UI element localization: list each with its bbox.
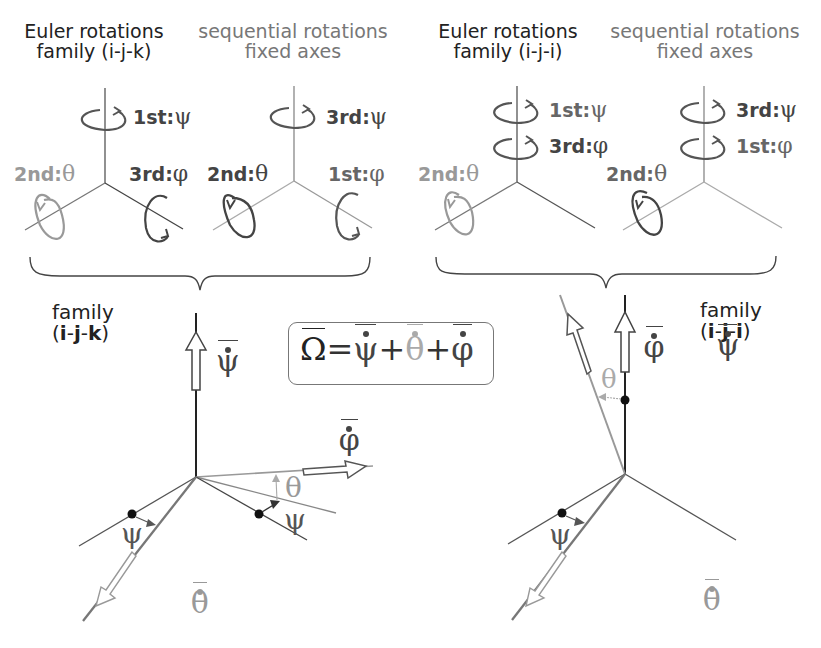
title-line-2: fixed axes (198, 42, 388, 62)
title-line-2: family (i-j-i) (428, 42, 588, 62)
angular-velocity-equation: Ω=ψ+θ+φ (300, 330, 474, 368)
plus-sign: + (378, 330, 405, 368)
rotation-arrow-icon (82, 107, 125, 130)
theta-dot-symbol: θ (405, 330, 424, 368)
title-line-1: Euler rotations (428, 22, 588, 42)
rotation-arrow-icon (632, 191, 661, 235)
title-line-1: sequential rotations (198, 22, 388, 42)
rotation-arrow-icon (681, 136, 724, 159)
rotation-arrow-icon (35, 195, 63, 239)
iji-fixed-title: sequential rotations fixed axes (610, 22, 800, 62)
ijk-fixed-title: sequential rotations fixed axes (198, 22, 388, 62)
rotation-label: 1st:ψ (133, 105, 191, 128)
theta-dot-vector-arrow (526, 552, 566, 606)
rotation-label: 1st:ψ (549, 98, 607, 121)
title-line-1: Euler rotations (14, 22, 174, 42)
psi-dot-vector-arrow (186, 332, 206, 390)
phi-dot-vector-arrow (567, 314, 591, 374)
phi-dot-symbol: φ (451, 330, 473, 368)
rotation-label: 2nd:θ (418, 162, 479, 185)
rotation-label: 2nd:θ (606, 162, 667, 185)
phi-dot-label: φ (644, 332, 665, 362)
iji-frame (508, 295, 736, 620)
theta-angle-label: θ (601, 366, 617, 392)
rotation-arrow-icon (336, 193, 359, 239)
rotation-arrow-icon (494, 100, 537, 123)
rotation-label: 3rd:φ (549, 134, 608, 157)
rotation-label: 3rd:ψ (326, 105, 387, 128)
rotation-label: 3rd:φ (129, 162, 188, 185)
rotation-arrow-icon (224, 195, 255, 237)
theta-dot-label: θ (703, 585, 721, 615)
rotation-label: 1st:φ (736, 134, 793, 157)
family-word: family (700, 300, 762, 321)
family-index: (i-j-k) (52, 323, 114, 344)
rotation-arrow-icon (494, 136, 537, 159)
omega-symbol: Ω (300, 330, 327, 368)
ijk-family-label: family (i-j-k) (52, 302, 114, 344)
psi-dot-vector-arrow (615, 312, 635, 372)
rotation-label: 3rd:ψ (736, 98, 797, 121)
rotation-arrow-icon (681, 100, 724, 123)
psi-dot-symbol: ψ (353, 330, 378, 368)
title-line-2: family (i-j-k) (14, 42, 174, 62)
right-brace (436, 256, 776, 288)
rotation-label: 2nd:θ (14, 162, 75, 185)
equals-sign: = (327, 330, 354, 368)
title-line-1: sequential rotations (610, 22, 800, 42)
plus-sign: + (425, 330, 452, 368)
phi-dot-label: φ (339, 425, 360, 455)
theta-dot-vector-arrow (96, 552, 136, 606)
psi-angle-label: ψ (121, 520, 143, 548)
psi-dot-label: ψ (216, 346, 240, 376)
rotation-label: 2nd:θ (207, 162, 268, 185)
rotation-label: 1st:φ (328, 162, 385, 185)
theta-dot-label: θ (191, 588, 209, 618)
rotation-arrow-icon (271, 105, 314, 128)
phi-dot-vector-arrow (303, 461, 366, 478)
psi-angle-label: ψ (549, 521, 571, 549)
theta-angle-label: θ (285, 474, 302, 502)
iji-euler-title: Euler rotations family (i-j-i) (428, 22, 588, 62)
family-word: family (52, 302, 114, 323)
title-line-2: fixed axes (610, 42, 800, 62)
left-brace (30, 257, 370, 290)
psi-dot-label: ψ (716, 330, 740, 360)
rotation-arrow-icon (445, 192, 473, 234)
psi-angle-label: ψ (284, 506, 306, 534)
ijk-euler-title: Euler rotations family (i-j-k) (14, 22, 174, 62)
